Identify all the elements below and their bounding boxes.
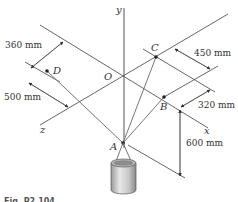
cable-ab: [123, 97, 164, 143]
point-d: [45, 69, 49, 73]
dim-320-text: 320 mm: [198, 100, 236, 110]
label-origin: O: [104, 71, 112, 82]
statics-diagram: y D C B A O z x 360 mm 500 mm 450 mm 320…: [0, 0, 238, 202]
y-axis-label: y: [115, 4, 122, 15]
dim-450-text: 450 mm: [194, 48, 232, 58]
point-b: [162, 95, 166, 99]
container-cylinder: [111, 159, 136, 194]
figure-caption: Fig. P2.104: [4, 197, 55, 202]
label-d: D: [52, 65, 61, 76]
label-c: C: [151, 42, 159, 53]
label-b: B: [159, 101, 167, 112]
label-a: A: [109, 141, 117, 152]
x-axis-label: x: [204, 125, 210, 136]
floor-line: [128, 145, 185, 178]
dim-500-text: 500 mm: [4, 92, 42, 102]
dim-600-text: 600 mm: [186, 138, 224, 148]
grid-line-b: [164, 66, 218, 97]
z-axis-label: z: [39, 124, 46, 135]
point-c: [154, 55, 158, 59]
cable-ac: [123, 57, 156, 143]
dim-360-text: 360 mm: [5, 40, 43, 50]
